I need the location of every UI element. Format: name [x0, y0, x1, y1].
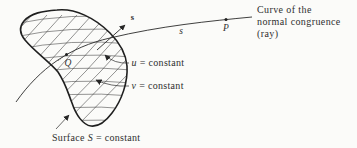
surface-leader-arrow: [56, 115, 69, 129]
v-suffix: = constant: [139, 80, 183, 91]
grid-curve: [0, 15, 77, 125]
v-constant-label: v= constant: [132, 80, 184, 91]
grid-curve: [78, 15, 182, 125]
caption-line-1: Curve of the: [257, 4, 312, 15]
normal-congruence-figure: Q P s s u= constant v= constant SurfaceS…: [0, 0, 357, 148]
diagram-canvas: Q P s s u= constant v= constant SurfaceS…: [0, 0, 357, 148]
point-q-dot: [65, 53, 68, 56]
v-symbol: v: [132, 80, 137, 91]
caption-line-3: (ray): [257, 28, 278, 40]
point-p-label: P: [222, 23, 229, 33]
arc-length-label: s: [179, 26, 183, 36]
grid-curve: [18, 15, 122, 125]
surface-grid: [0, 15, 182, 128]
grid-curve: [14, 120, 132, 128]
grid-curve: [3, 15, 107, 125]
grid-curve: [0, 15, 62, 125]
vector-s-label: s: [131, 12, 135, 22]
grid-curve: [0, 15, 32, 125]
point-p-dot: [225, 18, 228, 21]
curve-caption: Curve of the normal congruence (ray): [257, 4, 341, 40]
u-constant-label: u= constant: [132, 57, 185, 68]
caption-line-2: normal congruence: [257, 16, 341, 27]
point-q-label: Q: [65, 58, 72, 68]
grid-curve: [14, 29, 132, 37]
grid-curve: [14, 94, 132, 102]
u-suffix: = constant: [140, 57, 184, 68]
grid-curve: [0, 15, 47, 125]
grid-curve: [48, 15, 152, 125]
surface-word: Surface: [52, 132, 85, 143]
grid-curve: [14, 55, 132, 63]
surface-constant-label: SurfaceS= constant: [52, 132, 140, 143]
u-symbol: u: [132, 57, 137, 68]
grid-curve: [14, 16, 132, 24]
surface-suffix: = constant: [96, 132, 140, 143]
surface-symbol: S: [88, 132, 93, 143]
